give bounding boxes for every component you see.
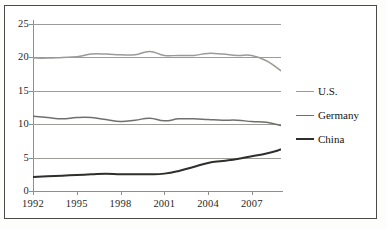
y-tick-label: 15 <box>7 86 29 96</box>
x-tick-mark <box>164 191 165 195</box>
legend-swatch-line-icon <box>296 91 314 92</box>
x-tick-mark <box>77 191 78 195</box>
legend-swatch-line-icon <box>296 138 314 140</box>
legend-label: Germany <box>318 109 359 121</box>
x-tick-label: 2001 <box>153 198 175 209</box>
x-axis-line <box>33 191 283 192</box>
series-line-china <box>33 150 281 177</box>
y-tick-label: 10 <box>7 119 29 129</box>
y-tick-label: 25 <box>7 19 29 29</box>
data-lines <box>33 24 281 191</box>
legend-item-germany: Germany <box>296 103 376 127</box>
y-axis-tick-labels: 0510152025 <box>0 0 29 229</box>
series-line-us <box>33 51 281 70</box>
x-tick-mark <box>33 191 34 195</box>
plot-area <box>33 24 281 191</box>
legend-label: U.S. <box>318 85 338 97</box>
chart-figure: 0510152025 199219951998200120042007 U.S.… <box>0 0 387 229</box>
x-tick-mark <box>252 191 253 195</box>
y-tick-label: 0 <box>7 186 29 196</box>
chart-legend: U.S.GermanyChina <box>296 79 376 151</box>
legend-swatch-line-icon <box>296 115 314 116</box>
x-tick-mark <box>208 191 209 195</box>
series-line-germany <box>33 116 281 125</box>
x-tick-label: 1998 <box>110 198 132 209</box>
x-tick-mark <box>121 191 122 195</box>
x-tick-label: 1992 <box>22 198 44 209</box>
y-tick-label: 20 <box>7 52 29 62</box>
x-tick-label: 2007 <box>241 198 263 209</box>
y-tick-label: 5 <box>7 153 29 163</box>
legend-item-china: China <box>296 127 376 151</box>
x-tick-label: 1995 <box>66 198 88 209</box>
legend-item-us: U.S. <box>296 79 376 103</box>
x-tick-label: 2004 <box>197 198 219 209</box>
legend-label: China <box>318 133 344 145</box>
